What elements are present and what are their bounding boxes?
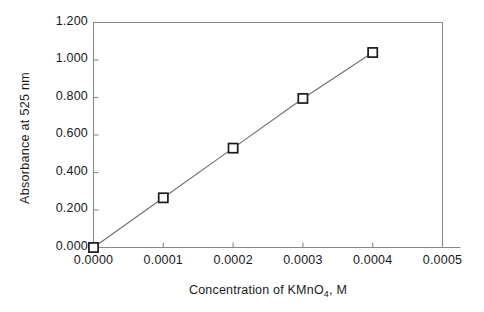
plot-area [0, 0, 484, 312]
x-axis-title-suffix: , M [329, 283, 347, 297]
data-point-marker [89, 243, 98, 252]
axis-ticks [94, 23, 443, 248]
data-point-marker [298, 94, 307, 103]
x-axis-title-main: Concentration of KMnO [189, 283, 324, 297]
data-series [89, 48, 377, 252]
chart-figure: Absorbance at 525 nm 0.0000.2000.4000.60… [0, 0, 484, 312]
plot-frame [94, 23, 443, 248]
data-point-marker [229, 144, 238, 153]
axes-frame [94, 23, 461, 248]
data-point-marker [368, 48, 377, 57]
x-axis-title-subscript: 4 [324, 289, 329, 299]
data-point-marker [159, 193, 168, 202]
x-axis-title: Concentration of KMnO4, M [94, 283, 442, 297]
